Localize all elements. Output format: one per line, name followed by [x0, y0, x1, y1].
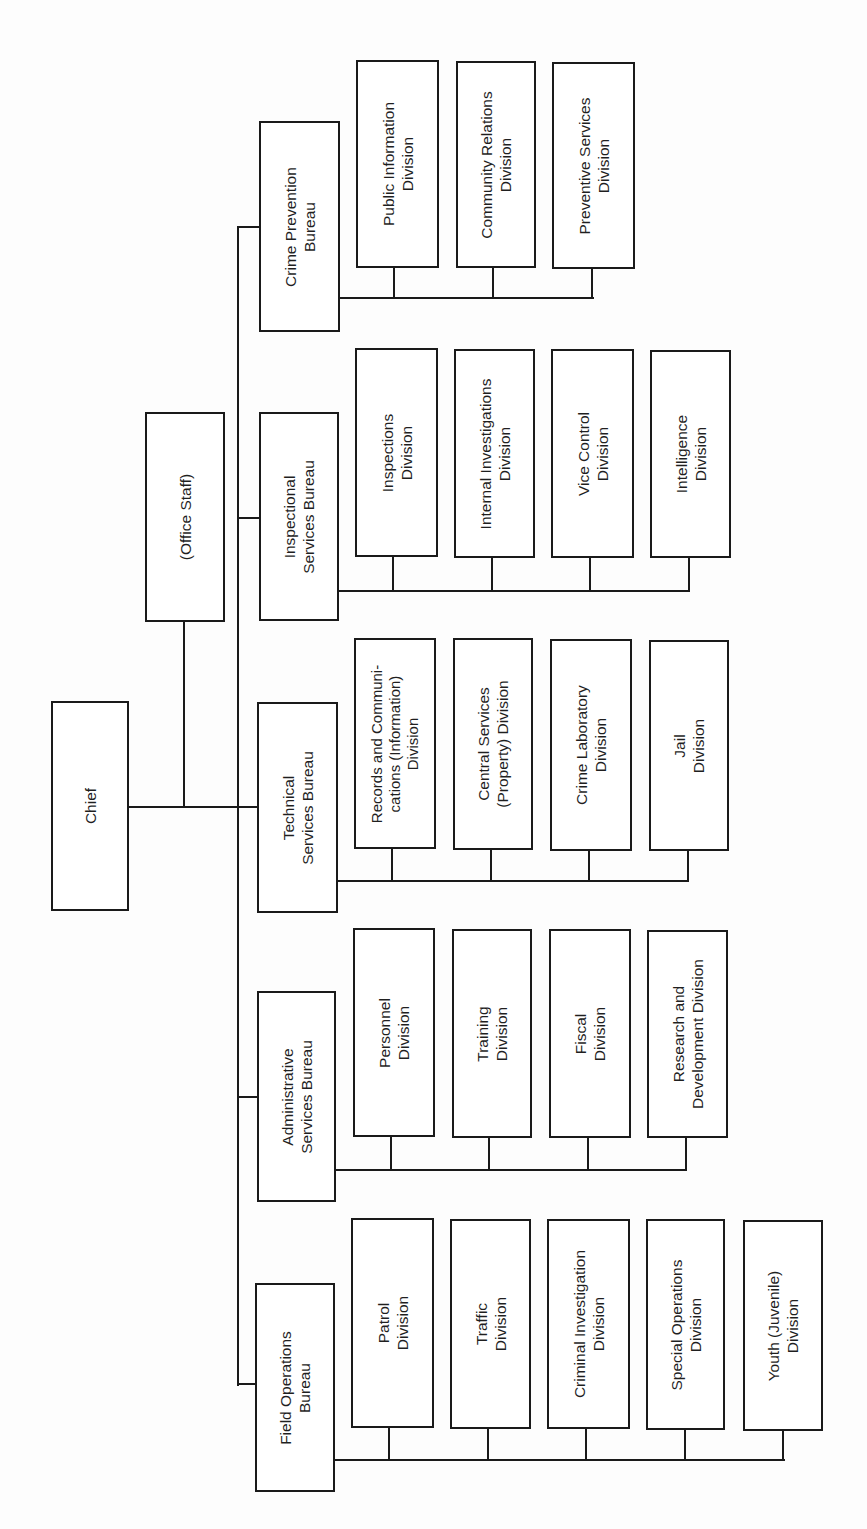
stem: [585, 1428, 587, 1460]
stem: [393, 267, 395, 298]
bureau-crime-prevention: Crime Prevention Bureau: [259, 121, 340, 332]
division-label: Vice Control Division: [574, 411, 612, 495]
division-label: Youth (Juvenile) Division: [764, 1270, 802, 1381]
office-staff-box: (Office Staff): [145, 412, 225, 622]
stem: [388, 1427, 390, 1460]
bureau-label: Technical Services Bureau: [279, 751, 317, 865]
stem: [687, 850, 689, 881]
division-label: Criminal Investigation Division: [570, 1250, 608, 1398]
bureau-label: Inspectional Services Bureau: [280, 460, 318, 574]
stem: [391, 848, 393, 881]
division-label: Patrol Division: [374, 1296, 412, 1350]
division-label: Internal Investigations Division: [476, 378, 514, 529]
org-chart-canvas: Chief (Office Staff) Crime Prevention Bu…: [0, 0, 867, 1529]
stem: [491, 557, 493, 591]
bureau-label: Crime Prevention Bureau: [281, 167, 319, 287]
stem: [490, 849, 492, 881]
division-records-communications: Records and Communi- cations (Informatio…: [354, 638, 436, 849]
division-research-development: Research and Development Division: [647, 930, 728, 1138]
stem: [390, 1136, 392, 1170]
bureau-inspectional-services: Inspectional Services Bureau: [259, 412, 339, 621]
division-internal-investigations: Internal Investigations Division: [454, 349, 535, 558]
division-label: Training Division: [473, 1006, 511, 1061]
division-label: Special Operations Division: [667, 1259, 705, 1390]
bus-administrative: [335, 1169, 687, 1171]
division-personnel: Personnel Division: [353, 928, 435, 1137]
division-label: Central Services (Property) Division: [474, 680, 512, 807]
bureau-administrative-services: Administrative Services Bureau: [257, 991, 336, 1202]
chief-box: Chief: [51, 701, 129, 911]
division-vice-control: Vice Control Division: [551, 349, 634, 558]
stem: [392, 557, 394, 591]
office-staff-label: (Office Staff): [176, 474, 195, 560]
division-jail: Jail Division: [649, 640, 729, 851]
stem: [492, 267, 494, 298]
stem: [588, 850, 590, 881]
branch-field-operations: [237, 1383, 256, 1385]
division-label: Jail Division: [670, 718, 708, 772]
stem: [589, 557, 591, 591]
stem: [587, 1137, 589, 1170]
division-community-relations: Community Relations Division: [456, 61, 536, 268]
division-preventive-services: Preventive Services Division: [552, 62, 635, 269]
bus-technical: [337, 880, 689, 882]
stem: [488, 1137, 490, 1170]
office-staff-stem-line: [183, 621, 185, 808]
branch-inspectional: [237, 517, 259, 519]
division-training: Training Division: [452, 929, 532, 1138]
bus-crime-prevention: [339, 297, 594, 299]
main-trunk-line: [237, 226, 239, 1386]
division-label: Intelligence Division: [672, 415, 710, 493]
chief-label: Chief: [81, 788, 100, 824]
division-fiscal: Fiscal Division: [549, 929, 631, 1138]
bus-inspectional: [338, 590, 690, 592]
bus-field-operations: [334, 1459, 785, 1461]
division-label: Preventive Services Division: [575, 97, 613, 234]
stem: [684, 1429, 686, 1460]
division-inspections: Inspections Division: [355, 348, 438, 557]
stem: [591, 268, 593, 298]
division-label: Inspections Division: [378, 413, 416, 491]
bureau-label: Field Operations Bureau: [276, 1331, 314, 1445]
stem: [685, 1137, 687, 1170]
division-central-services: Central Services (Property) Division: [453, 638, 533, 850]
division-label: Community Relations Division: [477, 91, 515, 238]
division-criminal-investigation: Criminal Investigation Division: [547, 1219, 630, 1429]
bureau-technical-services: Technical Services Bureau: [257, 702, 338, 913]
division-label: Traffic Division: [472, 1297, 510, 1351]
branch-crime-prevention: [237, 226, 259, 228]
division-label: Public Information Division: [379, 102, 417, 226]
division-public-information: Public Information Division: [356, 60, 439, 268]
division-label: Personnel Division: [375, 998, 413, 1068]
division-special-operations: Special Operations Division: [646, 1219, 725, 1430]
division-crime-laboratory: Crime Laboratory Division: [550, 639, 632, 851]
stem: [688, 557, 690, 591]
bureau-field-operations: Field Operations Bureau: [255, 1283, 335, 1492]
division-label: Records and Communi- cations (Informatio…: [368, 664, 422, 822]
division-label: Research and Development Division: [669, 959, 707, 1109]
division-traffic: Traffic Division: [450, 1219, 531, 1429]
division-intelligence: Intelligence Division: [650, 350, 731, 558]
division-youth-juvenile: Youth (Juvenile) Division: [743, 1220, 823, 1431]
division-patrol: Patrol Division: [351, 1218, 434, 1428]
bureau-label: Administrative Services Bureau: [278, 1040, 316, 1154]
division-label: Crime Laboratory Division: [572, 685, 610, 805]
stem: [487, 1428, 489, 1460]
stem: [782, 1430, 784, 1460]
division-label: Fiscal Division: [571, 1006, 609, 1060]
branch-administrative: [237, 1096, 257, 1098]
